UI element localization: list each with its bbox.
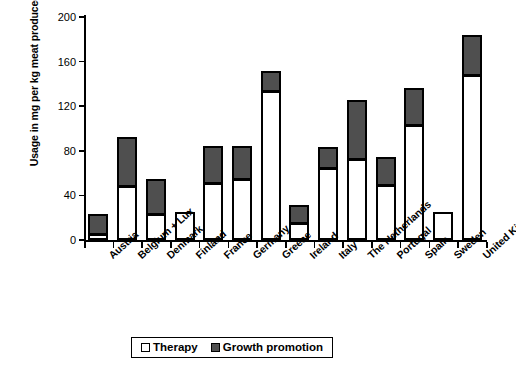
bar-segment-growth-promotion — [203, 146, 223, 184]
bar-segment-therapy — [347, 159, 367, 240]
bar-the-netherlands — [347, 100, 367, 240]
bar-belgium-lux — [117, 137, 137, 240]
x-axis-label-greece: Greece — [279, 252, 287, 261]
x-axis-label-sweden: Sweden — [451, 252, 459, 261]
y-axis-tick-label: 0 — [36, 234, 76, 246]
x-axis-label-finland: Finland — [193, 252, 201, 261]
y-axis-tick — [79, 195, 85, 197]
white-square-icon — [141, 343, 150, 352]
stacked-bar-chart: Usage in mg per kg meat produced 0408012… — [0, 0, 516, 379]
x-axis-label-spain: Spain — [422, 252, 430, 261]
y-axis-tick — [79, 61, 85, 63]
bar-greece — [261, 71, 281, 240]
chart-legend: Therapy Growth promotion — [131, 337, 333, 358]
x-axis-label-ireland: Ireland — [307, 252, 315, 261]
bar-germany — [232, 146, 252, 240]
y-axis-line — [84, 15, 86, 242]
y-axis-tick-label: 120 — [36, 100, 76, 112]
bar-segment-growth-promotion — [318, 147, 338, 168]
bar-france — [203, 146, 223, 240]
x-axis-label-austria: Austria — [106, 252, 114, 261]
x-axis-label-united-kingdom: United Kingdom — [480, 252, 488, 261]
bar-united-kingdom — [462, 35, 482, 240]
bar-segment-growth-promotion — [376, 157, 396, 186]
bar-segment-therapy — [318, 168, 338, 240]
y-axis-tick-label: 80 — [36, 145, 76, 157]
bar-segment-growth-promotion — [146, 179, 166, 216]
bar-segment-growth-promotion — [232, 146, 252, 179]
bar-segment-growth-promotion — [289, 205, 309, 224]
y-axis-tick — [79, 239, 85, 241]
x-axis-label-the-netherlands: The Netherlands — [365, 252, 373, 261]
y-axis-tick-label: 160 — [36, 56, 76, 68]
x-axis-label-france: France — [221, 252, 229, 261]
bar-segment-therapy — [261, 91, 281, 240]
bar-segment-therapy — [232, 179, 252, 240]
bar-segment-growth-promotion — [88, 214, 108, 235]
x-axis-tick — [84, 242, 86, 248]
y-axis-tick — [79, 16, 85, 18]
x-axis-label-belgium-lux: Belgium + Lux — [135, 252, 143, 261]
x-axis-label-portugal: Portugal — [394, 252, 402, 261]
bar-italy — [318, 147, 338, 240]
bar-segment-growth-promotion — [462, 35, 482, 76]
bar-segment-therapy — [462, 75, 482, 240]
x-axis-label-denmark: Denmark — [164, 252, 172, 261]
bar-segment-growth-promotion — [347, 100, 367, 160]
dark-square-icon — [211, 343, 220, 352]
legend-label-growth-promotion: Growth promotion — [223, 341, 323, 353]
y-axis-tick-label: 200 — [36, 11, 76, 23]
legend-label-therapy: Therapy — [153, 341, 198, 353]
bar-segment-growth-promotion — [261, 71, 281, 92]
x-axis-label-italy: Italy — [336, 252, 344, 261]
bar-segment-therapy — [88, 234, 108, 240]
legend-item-growth-promotion: Growth promotion — [211, 341, 323, 353]
bar-segment-growth-promotion — [117, 137, 137, 187]
bar-segment-growth-promotion — [404, 88, 424, 126]
y-axis-tick — [79, 105, 85, 107]
x-axis-label-germany: Germany — [250, 252, 258, 261]
y-axis-tick-label: 40 — [36, 189, 76, 201]
bar-austria — [88, 214, 108, 240]
legend-item-therapy: Therapy — [141, 341, 198, 353]
y-axis-tick — [79, 150, 85, 152]
